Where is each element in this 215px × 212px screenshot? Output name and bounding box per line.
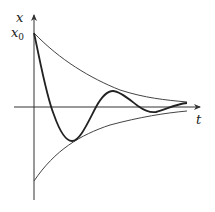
damped-oscillation-diagram: x x0 t bbox=[0, 0, 215, 212]
y-axis-label: x bbox=[16, 10, 24, 25]
x0-tick-label: x0 bbox=[11, 25, 24, 42]
x0-subscript: 0 bbox=[18, 32, 24, 42]
x-axis-label: t bbox=[196, 112, 202, 127]
